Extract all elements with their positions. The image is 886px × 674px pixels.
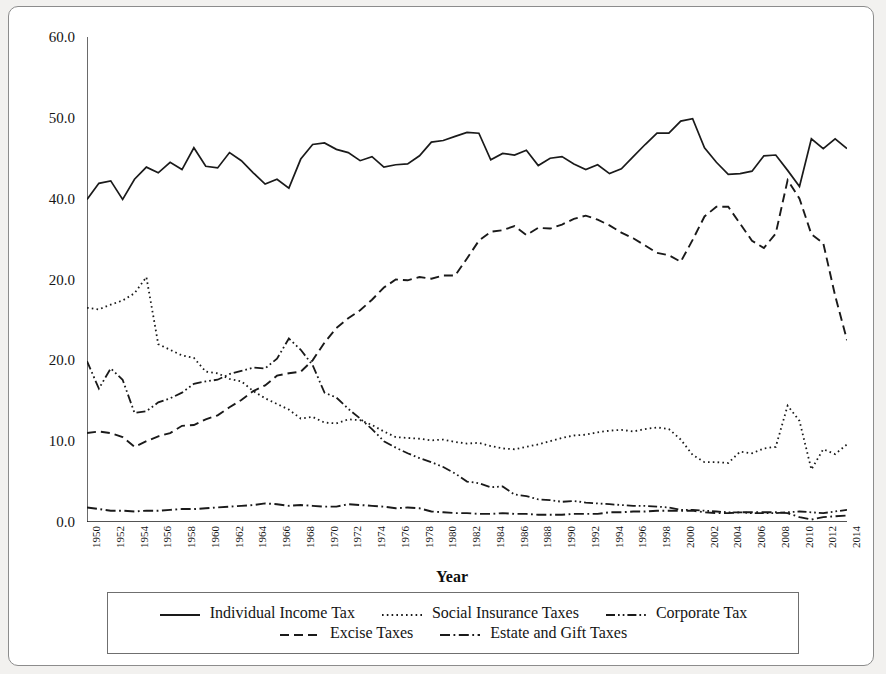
x-tick-label: 1964 bbox=[257, 526, 268, 548]
series-line-estate-and-gift-taxes bbox=[87, 503, 847, 519]
x-tick-label: 1968 bbox=[305, 526, 316, 548]
legend-individual-income-tax[interactable]: Individual Income Tax bbox=[159, 604, 355, 622]
x-tick-label: 1966 bbox=[281, 526, 292, 548]
x-tick-label: 1992 bbox=[590, 526, 601, 548]
y-tick-label: 20.0 bbox=[49, 272, 75, 287]
x-tick-label: 1954 bbox=[139, 526, 150, 548]
x-tick-label: 1950 bbox=[91, 526, 102, 548]
x-axis-title: Year bbox=[9, 568, 886, 586]
y-axis-tick-labels: 0.010.020.020.040.050.060.0 bbox=[9, 37, 79, 522]
x-tick-label: 1994 bbox=[614, 526, 625, 548]
x-tick-label: 1952 bbox=[115, 526, 126, 548]
y-tick-label: 20.0 bbox=[49, 353, 75, 368]
series-line-corporate-tax bbox=[87, 339, 847, 514]
axis-lines bbox=[87, 37, 847, 522]
series-line-excise-taxes bbox=[87, 180, 847, 447]
legend-social-insurance-taxes[interactable]: Social Insurance Taxes bbox=[381, 604, 579, 622]
legend-label: Corporate Tax bbox=[656, 604, 747, 622]
legend-label: Estate and Gift Taxes bbox=[490, 624, 627, 642]
legend-estate-and-gift-taxes[interactable]: Estate and Gift Taxes bbox=[439, 624, 627, 642]
legend-line-swatch-icon bbox=[381, 607, 423, 619]
y-tick-label: 50.0 bbox=[49, 110, 75, 125]
y-tick-label: 60.0 bbox=[49, 30, 75, 45]
data-series-group bbox=[87, 119, 847, 520]
x-tick-label: 1956 bbox=[162, 526, 173, 548]
x-tick-label: 2008 bbox=[780, 526, 791, 548]
legend-line-swatch-icon bbox=[279, 627, 321, 639]
series-line-individual-income-tax bbox=[87, 119, 847, 200]
series-line-social-insurance-taxes bbox=[87, 277, 847, 469]
x-tick-label: 2000 bbox=[685, 526, 696, 548]
x-tick-label: 1974 bbox=[376, 526, 387, 548]
legend-corporate-tax[interactable]: Corporate Tax bbox=[605, 604, 747, 622]
x-axis-tick-labels: 1950195219541956195819601962196419661968… bbox=[87, 526, 847, 568]
legend-row-1: Individual Income TaxSocial Insurance Ta… bbox=[159, 604, 748, 622]
legend-row-2: Excise TaxesEstate and Gift Taxes bbox=[279, 624, 627, 642]
x-tick-label: 1984 bbox=[495, 526, 506, 548]
x-tick-label: 2004 bbox=[732, 526, 743, 548]
legend-label: Social Insurance Taxes bbox=[432, 604, 579, 622]
x-tick-label: 1960 bbox=[210, 526, 221, 548]
x-tick-label: 1988 bbox=[542, 526, 553, 548]
x-tick-label: 2014 bbox=[851, 526, 862, 548]
axis-ticks bbox=[87, 37, 847, 522]
x-tick-label: 1962 bbox=[234, 526, 245, 548]
legend-label: Individual Income Tax bbox=[210, 604, 355, 622]
chart-frame: 0.010.020.020.040.050.060.0 195019521954… bbox=[8, 6, 874, 666]
x-tick-label: 1982 bbox=[471, 526, 482, 548]
x-tick-label: 2002 bbox=[709, 526, 720, 548]
legend-label: Excise Taxes bbox=[330, 624, 413, 642]
x-tick-label: 1970 bbox=[329, 526, 340, 548]
legend-line-swatch-icon bbox=[439, 627, 481, 639]
x-tick-label: 1978 bbox=[424, 526, 435, 548]
x-tick-label: 2010 bbox=[804, 526, 815, 548]
y-tick-label: 10.0 bbox=[49, 434, 75, 449]
chart-page: 0.010.020.020.040.050.060.0 195019521954… bbox=[0, 0, 886, 674]
x-tick-label: 1958 bbox=[186, 526, 197, 548]
x-tick-label: 1976 bbox=[400, 526, 411, 548]
x-tick-label: 1990 bbox=[566, 526, 577, 548]
x-tick-label: 2012 bbox=[827, 526, 838, 548]
x-tick-label: 1980 bbox=[447, 526, 458, 548]
x-tick-label: 1998 bbox=[661, 526, 672, 548]
x-tick-label: 1986 bbox=[519, 526, 530, 548]
y-tick-label: 40.0 bbox=[49, 191, 75, 206]
plot-area bbox=[87, 37, 847, 522]
x-tick-label: 2006 bbox=[756, 526, 767, 548]
legend-excise-taxes[interactable]: Excise Taxes bbox=[279, 624, 413, 642]
y-tick-label: 0.0 bbox=[56, 515, 75, 530]
legend-line-swatch-icon bbox=[159, 607, 201, 619]
x-tick-label: 1972 bbox=[352, 526, 363, 548]
legend-line-swatch-icon bbox=[605, 607, 647, 619]
line-chart-svg bbox=[87, 37, 847, 522]
x-tick-label: 1996 bbox=[637, 526, 648, 548]
chart-legend: Individual Income TaxSocial Insurance Ta… bbox=[107, 592, 799, 654]
